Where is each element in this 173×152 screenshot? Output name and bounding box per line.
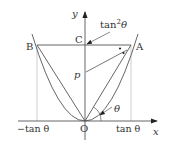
point-b-label: B (26, 41, 33, 52)
point-c-label: C (75, 34, 83, 45)
leader-theta (100, 107, 112, 115)
x-pos-tick-label: tan θ (116, 123, 141, 134)
angle-theta-label: θ (114, 103, 120, 114)
leader-tan2 (87, 32, 110, 44)
parabola-diagram: y x tan2θ C B A p θ O −tan θ tan θ (0, 0, 173, 152)
x-axis-label: x (153, 126, 159, 137)
tan2-label: tan2θ (100, 18, 127, 30)
y-axis-label: y (71, 8, 78, 19)
angle-mark-dot-2 (122, 52, 124, 54)
x-neg-tick-label: −tan θ (17, 123, 50, 134)
angle-arc (94, 107, 102, 121)
segment-ob (37, 45, 85, 121)
length-p-label: p (74, 69, 81, 80)
point-a-label: A (135, 41, 144, 52)
origin-label: O (80, 123, 88, 134)
angle-mark-dot-1 (119, 47, 121, 49)
